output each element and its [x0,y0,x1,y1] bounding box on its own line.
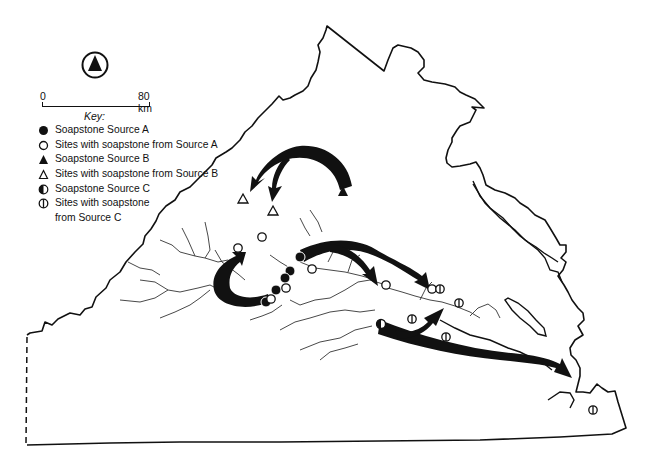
barred-circle-icon [38,198,49,209]
legend-item-source-a: Soapstone Source A [38,123,218,138]
key-title: Key: [84,110,105,122]
arrow-source-c-northeast [395,308,444,338]
arrow-source-b [250,146,352,192]
scale-line [42,102,150,107]
half-filled-circle-icon [38,184,49,195]
filled-circle-icon [38,125,49,136]
legend-item-source-c: Soapstone Source C [38,182,218,197]
north-arrow-icon [80,50,110,80]
source-c-point [377,320,386,329]
scale-bar: 0 80 km [38,90,158,110]
legend-label-continued: from Source C [38,211,218,226]
open-triangle-icon [38,169,49,180]
legend-item-source-b: Soapstone Source B [38,152,218,167]
scale-start-label: 0 [40,90,46,102]
legend-item-sites-a: Sites with soapstone from Source A [38,138,218,153]
trade-arrows [213,146,572,378]
legend-label: Sites with soapstone [55,196,149,211]
legend-label: Sites with soapstone from Source A [55,138,218,153]
legend-label: Soapstone Source A [55,123,149,138]
legend-label: Sites with soapstone from Source B [55,167,218,182]
arrow-source-a-west [213,252,270,307]
legend-label: Soapstone Source C [55,182,150,197]
legend-item-sites-c: Sites with soapstone [38,196,218,211]
legend-label: Soapstone Source B [55,152,149,167]
legend-item-sites-b: Sites with soapstone from Source B [38,167,218,182]
coastline-detail [440,181,574,408]
legend: Soapstone Source A Sites with soapstone … [38,123,218,226]
state-outline [27,26,626,445]
filled-triangle-icon [38,154,49,165]
arrow-source-c-east [378,320,572,378]
dashed-border [26,337,27,444]
open-circle-icon [38,140,49,151]
